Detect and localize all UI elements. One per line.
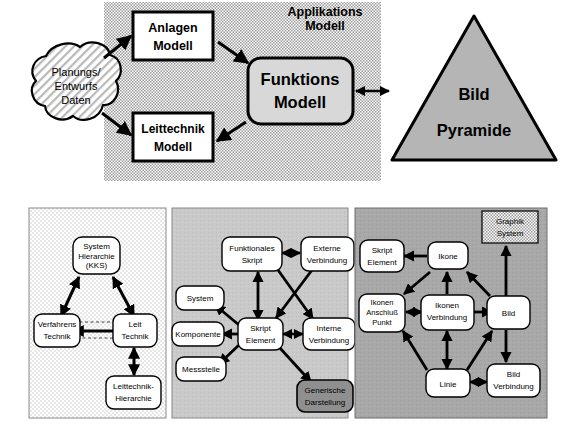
node-skript-element-line2: Element: [246, 336, 276, 345]
node-verfahrens-technik[interactable]: Verfahrens Technik: [34, 314, 80, 347]
node-bild-label: Bild: [502, 309, 515, 318]
diagram-canvas: Applikations Modell Planungs/ Entwurfs D…: [0, 0, 566, 429]
node-verfahrens-technik-line2: Technik: [43, 332, 71, 341]
node-system-hierarchie-line1: System: [83, 242, 110, 251]
node-linie[interactable]: Linie: [426, 369, 470, 397]
node-externe-verbindung-line1: Externe: [313, 244, 341, 253]
node-skript-element-3-line2: Element: [367, 258, 397, 267]
funktions-modell-line1: Funktions: [261, 70, 340, 88]
applikations-modell-label-line1: Applikations: [287, 5, 362, 19]
node-generische-darstellung-line2: Darstellung: [305, 398, 345, 407]
panel-3-group: Graphik System Skript Element Ikone Ikon…: [355, 208, 547, 418]
node-leittechnik-hierarchie-line2: Hierarchie: [115, 394, 152, 403]
node-bild-verbindung-shape: [487, 364, 540, 397]
funktions-modell-box: [248, 58, 353, 124]
funktions-modell-line2: Modell: [274, 93, 326, 111]
node-ikonen-anschluss-punkt-line2: Anschluß: [366, 308, 398, 317]
cloud-label-line3: Daten: [61, 94, 90, 106]
node-bild-verbindung[interactable]: Bild Verbindung: [487, 364, 540, 397]
leittechnik-modell-line2: Modell: [154, 140, 192, 154]
node-verfahrens-technik-shape: [34, 314, 80, 347]
node-funktionales-skript[interactable]: Funktionales Skript: [222, 237, 282, 271]
node-verfahrens-technik-line1: Verfahrens: [38, 320, 77, 329]
node-graphik-system-shape: [482, 211, 538, 243]
node-generische-darstellung[interactable]: Generische Darstellung: [297, 380, 353, 412]
leittechnik-modell-line1: Leittechnik: [141, 122, 205, 136]
node-interne-verbindung-line1: Interne: [317, 324, 342, 333]
node-generische-darstellung-line1: Generische: [305, 386, 346, 395]
node-bild-verbindung-line1: Bild: [507, 370, 520, 379]
node-bild[interactable]: Bild: [487, 296, 530, 329]
node-skript-element-3-shape: [360, 240, 404, 272]
node-interne-verbindung[interactable]: Interne Verbindung: [303, 318, 355, 350]
node-generische-darstellung-shape: [297, 380, 353, 412]
anlagen-modell-line1: Anlagen: [148, 21, 197, 35]
node-leittechnik-hierarchie-line1: Leittechnik-: [113, 382, 154, 391]
node-skript-element-line1: Skript: [250, 324, 271, 333]
node-skript-element-3[interactable]: Skript Element: [360, 240, 404, 272]
node-ikone-label: Ikone: [438, 252, 458, 261]
node-ikonen-verbindung-line1: Ikonen: [435, 301, 459, 310]
full-figure: Applikations Modell Planungs/ Entwurfs D…: [0, 0, 566, 429]
node-leit-technik-shape: [113, 314, 157, 347]
anlagen-modell-line2: Modell: [153, 39, 193, 53]
cloud-label-line2: Entwurfs: [55, 80, 98, 92]
node-graphik-system[interactable]: Graphik System: [482, 211, 538, 243]
applikations-modell-label-line2: Modell: [305, 19, 345, 33]
node-funktionales-skript-shape: [222, 237, 282, 271]
upper-diagram: Applikations Modell Planungs/ Entwurfs D…: [32, 2, 556, 181]
node-interne-verbindung-line2: Verbindung: [309, 336, 349, 345]
node-komponente[interactable]: Komponente: [172, 322, 224, 346]
node-system-hierarchie-line2: Hierarchie: [78, 252, 115, 261]
node-skript-element-shape: [238, 318, 283, 350]
node-leit-technik-line2: Technik: [121, 332, 149, 341]
node-skript-element-3-line1: Skript: [372, 246, 393, 255]
node-messstelle-label: Messstelle: [182, 365, 220, 374]
node-system-hierarchie[interactable]: System Hierarchie (KKS): [73, 237, 120, 274]
node-bild-verbindung-line2: Verbindung: [493, 382, 533, 391]
node-graphik-system-line1: Graphik: [496, 217, 525, 226]
pyramide-line2: Pyramide: [437, 121, 511, 139]
node-skript-element[interactable]: Skript Element: [238, 318, 283, 350]
node-leit-technik[interactable]: Leit Technik: [113, 314, 157, 347]
node-ikone[interactable]: Ikone: [428, 242, 468, 269]
node-externe-verbindung[interactable]: Externe Verbindung: [301, 237, 354, 271]
node-ikonen-verbindung[interactable]: Ikonen Verbindung: [421, 295, 474, 330]
pyramide-line1: Bild: [458, 85, 489, 103]
node-ikonen-anschluss-punkt-line3: Punkt: [372, 318, 392, 327]
node-funktionales-skript-line2: Skript: [242, 256, 263, 265]
panel-1-group: System Hierarchie (KKS) Verfahrens Techn…: [29, 208, 166, 418]
node-externe-verbindung-line2: Verbindung: [307, 256, 347, 265]
node-interne-verbindung-shape: [303, 318, 355, 350]
node-ikonen-anschluss-punkt[interactable]: Ikonen Anschluß Punkt: [359, 294, 405, 332]
cloud-label-line1: Planungs/: [52, 66, 102, 78]
node-komponente-label: Komponente: [175, 330, 221, 339]
node-system-2[interactable]: System: [176, 286, 224, 310]
node-leittechnik-hierarchie-shape: [106, 376, 161, 409]
node-ikonen-anschluss-punkt-line1: Ikonen: [371, 298, 394, 307]
node-externe-verbindung-shape: [301, 237, 354, 271]
node-messstelle[interactable]: Messstelle: [176, 357, 226, 381]
node-system-2-label: System: [187, 294, 214, 303]
node-funktionales-skript-line1: Funktionales: [229, 244, 274, 253]
node-ikonen-verbindung-line2: Verbindung: [427, 313, 467, 322]
node-leittechnik-hierarchie[interactable]: Leittechnik- Hierarchie: [106, 376, 161, 409]
panel-2-group: Funktionales Skript Externe Verbindung S…: [172, 208, 355, 418]
node-graphik-system-line2: System: [497, 229, 524, 238]
node-leit-technik-line1: Leit: [129, 320, 143, 329]
node-linie-label: Linie: [440, 380, 457, 389]
node-system-hierarchie-line3: (KKS): [86, 261, 108, 270]
